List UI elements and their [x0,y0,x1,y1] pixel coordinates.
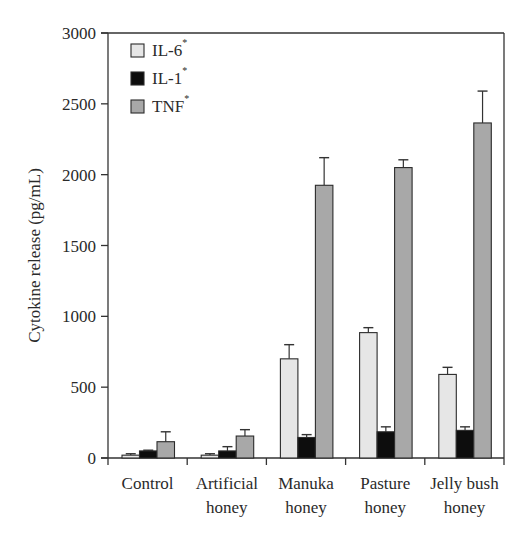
y-tick-label: 1500 [62,237,96,256]
legend: IL-6*IL-1*TNF* [131,37,189,116]
y-tick-label: 1000 [62,307,96,326]
y-tick-label: 500 [71,378,97,397]
x-category-label: Control [122,474,174,493]
y-axis-label: Cytokine release (pg/mL) [25,168,44,343]
legend-item-il-1: IL-1* [131,65,187,88]
bar-il-6 [360,328,378,458]
legend-swatch [131,44,144,57]
x-category-label: honey [444,498,486,517]
bar-il-6 [201,454,219,458]
y-tick-label: 0 [88,449,97,468]
x-category-label: honey [206,498,248,517]
bar-il-6 [280,345,298,458]
x-category-label: Jelly bush [430,474,499,493]
y-axis-title: Cytokine release (pg/mL) [25,168,44,343]
legend-label: IL-1* [152,65,187,88]
bar-il-1 [219,447,237,458]
legend-item-tnf: TNF* [131,93,189,116]
bar-il-6 [122,454,140,458]
chart-canvas: Cytokine release (pg/mL) 050010001500200… [0,0,527,548]
y-tick-label: 2500 [62,95,96,114]
x-category-label: honey [285,498,327,517]
legend-label: IL-6* [152,37,187,60]
bar-tnf [157,432,175,458]
legend-label: TNF* [152,93,189,116]
x-category-label: Artificial [196,474,259,493]
bar-il-1 [298,435,316,458]
bar-tnf [236,430,254,458]
y-tick-label: 3000 [62,24,96,43]
bar-il-1 [456,427,474,458]
bar-il-6 [439,367,457,458]
legend-swatch [131,100,144,113]
x-category-label: Manuka [278,474,334,493]
bar-il-1 [377,427,395,458]
x-category-label: Pasture [360,474,410,493]
legend-item-il-6: IL-6* [131,37,187,60]
y-tick-label: 2000 [62,166,96,185]
x-category-label: honey [364,498,406,517]
bars [122,91,491,458]
bar-il-1 [140,450,158,458]
bar-tnf [315,158,333,458]
legend-swatch [131,72,144,85]
y-axis-ticks: 050010001500200025003000 [62,24,108,468]
bar-tnf [474,91,492,458]
bar-chart: Cytokine release (pg/mL) 050010001500200… [0,0,527,548]
x-axis-labels: ControlArtificialhoneyManukahoneyPasture… [122,474,500,517]
bar-tnf [395,160,413,458]
